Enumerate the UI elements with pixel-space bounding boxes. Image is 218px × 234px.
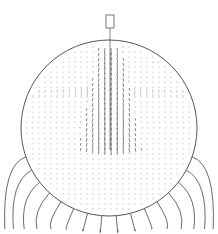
flow-field-svg: [0, 0, 218, 234]
capillary-tube: [106, 15, 114, 150]
droplet-outline: [21, 40, 197, 216]
flow-field-diagram: [0, 0, 218, 234]
external-field-lines: [5, 157, 214, 233]
velocity-vectors: [26, 46, 191, 210]
